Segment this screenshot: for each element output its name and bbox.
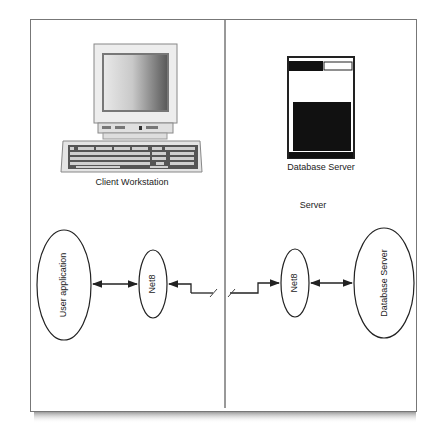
client-workstation-label: Client Workstation [96, 177, 169, 187]
database-server-icon [288, 57, 354, 158]
server-section-label: Server [300, 200, 327, 210]
net8-client-label: Net8 [147, 274, 157, 293]
diagram-frame [31, 20, 417, 412]
net8-server-label: Net8 [289, 273, 299, 292]
user-application-label: User application [58, 253, 68, 318]
page-shadow [34, 411, 416, 423]
database-server-icon-label: Database Server [287, 162, 355, 172]
architecture-diagram: User application Net8 Net8 Database Serv… [0, 0, 438, 438]
database-server-node-label: Database Server [379, 249, 389, 317]
